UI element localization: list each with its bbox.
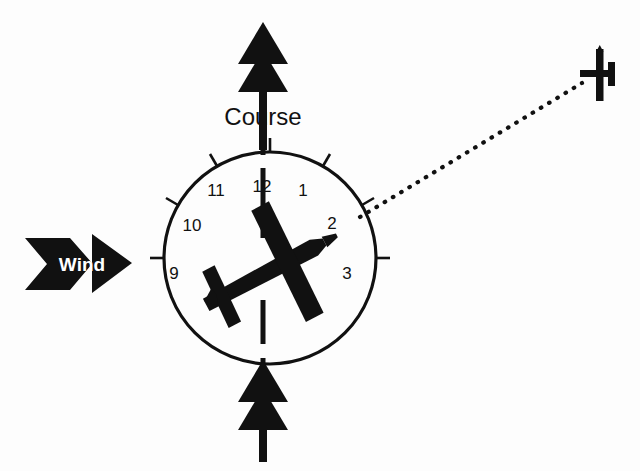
course-arrow bbox=[238, 22, 288, 150]
traffic-aircraft-silhouette bbox=[580, 45, 615, 101]
tick-2 bbox=[362, 198, 374, 205]
wind-arrow: Wind bbox=[25, 234, 132, 293]
diagram-canvas: Course 12 1 bbox=[0, 0, 640, 471]
traffic-aircraft-tailplane bbox=[608, 62, 615, 86]
tick-1 bbox=[323, 154, 330, 166]
course-arrow-head-upper bbox=[238, 22, 288, 64]
clock-number-9: 9 bbox=[169, 264, 178, 283]
course-label: Course bbox=[224, 103, 301, 130]
clock-number-3: 3 bbox=[342, 264, 351, 283]
wind-label: Wind bbox=[59, 254, 105, 275]
tick-10 bbox=[166, 198, 178, 205]
clock-number-10: 10 bbox=[183, 216, 202, 235]
clock-number-12: 12 bbox=[253, 177, 272, 196]
clock-number-2: 2 bbox=[327, 214, 336, 233]
lower-course-arrow-head-upper bbox=[238, 360, 288, 402]
wind-clock-diagram: Course 12 1 bbox=[0, 0, 640, 471]
traffic-aircraft-nose bbox=[596, 45, 604, 52]
clock-number-11: 11 bbox=[207, 181, 225, 200]
own-aircraft-main-wing bbox=[248, 201, 327, 322]
clock-number-1: 1 bbox=[298, 181, 307, 200]
own-aircraft-silhouette bbox=[177, 181, 366, 360]
tick-11 bbox=[210, 154, 217, 166]
lower-course-arrow bbox=[238, 360, 288, 462]
traffic-sight-line bbox=[360, 83, 582, 217]
